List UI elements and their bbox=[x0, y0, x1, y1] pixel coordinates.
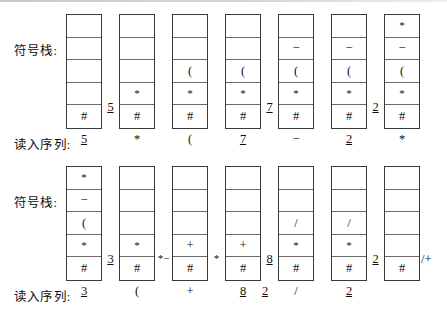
stack-cell: # bbox=[332, 257, 366, 280]
input-token: 2 bbox=[331, 284, 367, 299]
stack-cell: # bbox=[173, 105, 207, 128]
stack-cell: * bbox=[385, 15, 419, 38]
stack: # bbox=[66, 14, 102, 129]
stack-cell: * bbox=[279, 83, 313, 106]
stack-cell: # bbox=[226, 257, 260, 280]
stack-cell: − bbox=[385, 38, 419, 61]
stack-cell: # bbox=[173, 257, 207, 280]
row2-symbol-stack-label: 符号栈: bbox=[14, 192, 57, 211]
gap-annotation: 7 bbox=[261, 100, 278, 115]
stack-cell: * bbox=[226, 83, 260, 106]
stack-cell bbox=[385, 212, 419, 235]
stack-cell bbox=[226, 38, 260, 61]
stack-cell bbox=[385, 167, 419, 190]
stack-cell: / bbox=[332, 212, 366, 235]
stack: # bbox=[384, 166, 420, 281]
stack-cell: # bbox=[279, 105, 313, 128]
stack: ( * # bbox=[172, 14, 208, 129]
row1-input-sequence-label: 读入序列: bbox=[14, 134, 70, 153]
stack-cell: * bbox=[67, 235, 101, 258]
stack-cell: − bbox=[279, 38, 313, 61]
stack-cell bbox=[173, 15, 207, 38]
stack-cell bbox=[385, 190, 419, 213]
stack-cell: ( bbox=[67, 212, 101, 235]
stack: * # bbox=[119, 14, 155, 129]
stack: + # bbox=[225, 166, 261, 281]
stack: / * # bbox=[331, 166, 367, 281]
stack-cell bbox=[67, 83, 101, 106]
stack-cell bbox=[226, 212, 260, 235]
input-token: ( bbox=[172, 132, 208, 147]
input-token: 8 bbox=[225, 284, 261, 299]
stack: * − ( * # bbox=[66, 166, 102, 281]
trace-row-2: 符号栈: 读入序列: * − ( * # 3 3 * # ( *− + # + … bbox=[0, 160, 447, 312]
gap-annotation-before: 2 bbox=[258, 284, 272, 299]
stack-cell: # bbox=[385, 257, 419, 280]
input-token: / bbox=[278, 284, 314, 299]
stack-cell bbox=[120, 60, 154, 83]
stack-cell: # bbox=[120, 105, 154, 128]
stack-cell: ( bbox=[226, 60, 260, 83]
stack-cell bbox=[332, 167, 366, 190]
stack-cell: ( bbox=[385, 60, 419, 83]
row1-symbol-stack-label: 符号栈: bbox=[14, 40, 57, 59]
stack: + # bbox=[172, 166, 208, 281]
stack-cell: ( bbox=[279, 60, 313, 83]
stack-cell bbox=[173, 212, 207, 235]
stack-cell bbox=[67, 15, 101, 38]
trace-row-1: 符号栈: 读入序列: # 5 5 * # * ( * # ( ( * # 7 7 bbox=[0, 8, 447, 158]
stack-cell: # bbox=[279, 257, 313, 280]
stack-cell bbox=[120, 38, 154, 61]
stack-cell bbox=[385, 235, 419, 258]
stack-cell bbox=[226, 15, 260, 38]
stack: − ( * # bbox=[278, 14, 314, 129]
stack-cell: + bbox=[173, 235, 207, 258]
stack-cell: # bbox=[67, 105, 101, 128]
stack-cell: * bbox=[67, 167, 101, 190]
stack-cell bbox=[173, 167, 207, 190]
stack-cell: # bbox=[385, 105, 419, 128]
stack-cell: * bbox=[279, 235, 313, 258]
stack-cell: − bbox=[67, 190, 101, 213]
stack-cell: * bbox=[120, 235, 154, 258]
stack-cell bbox=[120, 15, 154, 38]
stack: ( * # bbox=[225, 14, 261, 129]
stack-cell bbox=[332, 190, 366, 213]
stack-cell bbox=[120, 167, 154, 190]
stack-cell bbox=[173, 38, 207, 61]
stack: / * # bbox=[278, 166, 314, 281]
input-token: ( bbox=[119, 284, 155, 299]
stack-cell bbox=[120, 190, 154, 213]
input-token: * bbox=[384, 132, 420, 147]
input-token: * bbox=[119, 132, 155, 147]
stack-cell: ( bbox=[173, 60, 207, 83]
stack: * # bbox=[119, 166, 155, 281]
stack: − ( * # bbox=[331, 14, 367, 129]
stack-cell: * bbox=[173, 83, 207, 106]
gap-annotation: * bbox=[208, 252, 225, 264]
stack-cell: * bbox=[385, 83, 419, 106]
gap-annotation: 2 bbox=[367, 100, 384, 115]
input-token: 3 bbox=[66, 284, 102, 299]
stack-cell: * bbox=[120, 83, 154, 106]
stack-cell bbox=[332, 15, 366, 38]
stack-cell: # bbox=[120, 257, 154, 280]
stack-cell bbox=[173, 190, 207, 213]
stack: * − ( * # bbox=[384, 14, 420, 129]
gap-annotation: 2 bbox=[367, 252, 384, 267]
stack-cell bbox=[279, 190, 313, 213]
stack-cell: + bbox=[226, 235, 260, 258]
gap-annotation: /+ bbox=[421, 252, 443, 267]
gap-annotation: *− bbox=[155, 252, 172, 264]
gap-annotation: 8 bbox=[261, 252, 278, 267]
stack-cell: / bbox=[279, 212, 313, 235]
stack-cell: ( bbox=[332, 60, 366, 83]
input-token: 2 bbox=[331, 132, 367, 147]
input-token: 5 bbox=[66, 132, 102, 147]
stack-cell bbox=[67, 60, 101, 83]
stack-cell bbox=[226, 190, 260, 213]
stack-cell bbox=[67, 38, 101, 61]
row2-input-sequence-label: 读入序列: bbox=[14, 286, 70, 305]
stack-cell bbox=[279, 167, 313, 190]
stack-cell: # bbox=[226, 105, 260, 128]
